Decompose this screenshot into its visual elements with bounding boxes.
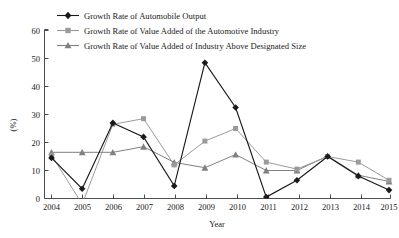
line-chart: Growth Rate of Automobile Output Growth … — [0, 0, 399, 238]
square-data-marker — [202, 139, 207, 144]
x-axis: 2004 2005 2006 2007 2008 2009 2010 2011 … — [43, 195, 398, 230]
x-axis-title: Year — [209, 219, 225, 229]
diamond-data-marker — [171, 183, 178, 190]
y-axis: 60 50 40 30 20 10 0 (%) — [8, 26, 49, 204]
square-data-marker — [233, 126, 238, 131]
y-tick-label: 10 — [32, 166, 41, 176]
x-tick-label: 2008 — [167, 202, 184, 212]
x-tick-label: 2013 — [322, 202, 339, 212]
y-tick-label: 60 — [32, 26, 41, 36]
diamond-data-marker — [232, 104, 239, 111]
x-tick-label: 2006 — [105, 202, 122, 212]
series-1 — [48, 59, 392, 200]
square-data-marker — [141, 116, 146, 121]
diamond-data-marker — [202, 59, 209, 66]
series-line — [52, 63, 390, 197]
x-tick-label: 2014 — [353, 202, 371, 212]
square-data-marker — [172, 162, 177, 167]
axis-frame — [45, 30, 391, 199]
x-tick-label: 2011 — [260, 202, 277, 212]
axis-lines — [45, 30, 391, 199]
y-tick-label: 0 — [36, 194, 40, 204]
triangle-data-marker — [140, 143, 147, 149]
square-data-marker — [294, 167, 299, 172]
x-tick-label: 2009 — [198, 202, 215, 212]
square-marker-icon — [65, 28, 70, 33]
x-tick-label: 2012 — [291, 202, 308, 212]
triangle-data-marker — [232, 151, 239, 157]
diamond-data-marker — [386, 187, 393, 194]
legend-item-label: Growth Rate of Value Added of the Automo… — [84, 26, 280, 36]
legend-item-label: Growth Rate of Automobile Output — [84, 11, 207, 21]
y-tick-label: 50 — [32, 54, 41, 64]
legend-item-label: Growth Rate of Value Added of Industry A… — [84, 41, 306, 51]
square-data-marker — [356, 160, 361, 165]
x-tick-label: 2007 — [136, 202, 153, 212]
chart-legend: Growth Rate of Automobile Output Growth … — [57, 11, 306, 51]
y-axis-title: (%) — [8, 118, 18, 131]
x-tick-label: 2005 — [74, 202, 91, 212]
legend-item-automotive-industry-value-added[interactable]: Growth Rate of Value Added of the Automo… — [57, 26, 280, 36]
diamond-data-marker — [140, 134, 147, 141]
y-tick-label: 40 — [32, 82, 41, 92]
square-data-marker — [264, 160, 269, 165]
chart-canvas: Growth Rate of Automobile Output Growth … — [0, 0, 399, 238]
legend-item-industry-above-designated-size[interactable]: Growth Rate of Value Added of Industry A… — [57, 41, 306, 51]
y-tick-label: 20 — [32, 138, 41, 148]
data-series-layer — [48, 59, 392, 206]
x-tick-label: 2010 — [229, 202, 246, 212]
diamond-marker-icon — [65, 12, 72, 19]
legend-item-automobile-output[interactable]: Growth Rate of Automobile Output — [57, 11, 207, 21]
square-data-marker — [387, 178, 392, 183]
x-tick-label: 2004 — [43, 202, 61, 212]
x-tick-label: 2015 — [381, 202, 398, 212]
series-3 — [48, 143, 392, 184]
y-tick-label: 30 — [32, 110, 41, 120]
